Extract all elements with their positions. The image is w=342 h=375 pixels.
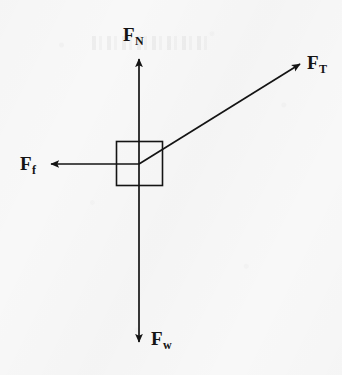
force-label-tension-subscript: T xyxy=(319,62,327,76)
force-arrow-tension xyxy=(139,64,300,164)
force-label-tension: FT xyxy=(307,53,327,75)
vector-canvas xyxy=(0,0,342,375)
force-label-friction-subscript: f xyxy=(32,163,36,177)
force-label-tension-base: F xyxy=(307,52,319,73)
force-label-weight-base: F xyxy=(151,328,163,349)
force-label-normal-subscript: N xyxy=(135,34,144,48)
force-label-weight: Fw xyxy=(151,329,172,351)
force-label-normal-base: F xyxy=(123,24,135,45)
force-label-weight-subscript: w xyxy=(163,338,172,352)
force-label-friction: Ff xyxy=(20,154,36,176)
force-diagram: FN FT Ff Fw xyxy=(0,0,342,375)
force-label-friction-base: F xyxy=(20,153,32,174)
force-label-normal: FN xyxy=(123,25,144,47)
